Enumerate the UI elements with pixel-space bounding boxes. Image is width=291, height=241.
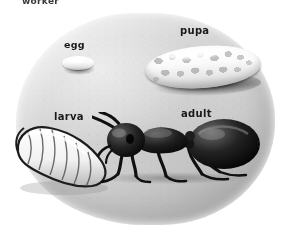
- label-pupa: pupa: [180, 25, 209, 36]
- label-egg: egg: [64, 39, 85, 50]
- egg-highlight: [68, 58, 84, 63]
- ant-life-cycle-figure: worker egg pupa: [0, 0, 291, 241]
- top-caption: worker: [22, 0, 59, 6]
- pupa-illustration: [145, 44, 267, 102]
- adult-ant-illustration: [92, 112, 270, 196]
- egg-illustration: [60, 54, 98, 76]
- label-larva: larva: [54, 111, 84, 122]
- label-adult: adult: [181, 108, 212, 119]
- pupa-body: [144, 42, 263, 92]
